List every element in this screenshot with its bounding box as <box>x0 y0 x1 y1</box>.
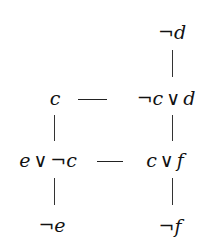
variable-c: c <box>50 87 61 109</box>
or-symbol: ∨ <box>33 149 47 171</box>
node-not-d: ¬d <box>158 23 186 42</box>
variable-c: c <box>66 149 77 171</box>
edge-not-c-or-d-to-c-or-f <box>172 115 173 141</box>
variable-d: d <box>183 87 195 109</box>
variable-c: c <box>146 149 157 171</box>
node-c: c <box>50 89 61 108</box>
edge-not-d-to-not-c-or-d <box>172 50 173 77</box>
variable-e: e <box>19 149 30 171</box>
edge-e-or-not-c-to-not-e <box>54 178 55 205</box>
variable-f: f <box>174 215 181 237</box>
variable-e: e <box>54 214 65 236</box>
node-e-or-not-c: e∨¬c <box>19 151 77 170</box>
edge-c-or-f-to-not-f <box>172 178 173 205</box>
negation-symbol: ¬ <box>38 214 54 236</box>
node-not-e: ¬e <box>38 216 65 235</box>
variable-d: d <box>174 21 186 43</box>
variable-f: f <box>177 149 184 171</box>
node-c-or-f: c∨f <box>146 151 184 170</box>
or-symbol: ∨ <box>160 149 174 171</box>
node-not-f: ¬f <box>159 217 182 236</box>
edge-c-to-e-or-not-c <box>54 115 55 141</box>
variable-c: c <box>153 87 164 109</box>
edge-e-or-not-c-to-c-or-f <box>97 161 123 162</box>
negation-symbol: ¬ <box>50 149 66 171</box>
negation-symbol: ¬ <box>158 21 174 43</box>
negation-symbol: ¬ <box>137 87 153 109</box>
node-not-c-or-d: ¬c∨d <box>137 89 196 108</box>
or-symbol: ∨ <box>166 87 180 109</box>
edge-c-to-not-c-or-d <box>78 99 107 100</box>
negation-symbol: ¬ <box>159 215 175 237</box>
